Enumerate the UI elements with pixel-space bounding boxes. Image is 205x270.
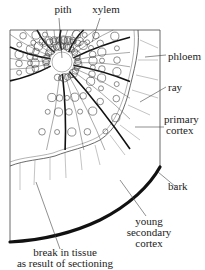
vessel	[89, 57, 97, 65]
leader-phloem	[145, 55, 166, 57]
vessel	[55, 130, 60, 135]
vessel	[42, 32, 47, 37]
ray-line	[47, 74, 60, 150]
vessel	[48, 93, 56, 101]
vessel	[68, 128, 76, 136]
vessel	[31, 40, 36, 45]
cortex-fibre	[34, 160, 35, 185]
leader-young-secondary-cortex	[120, 180, 146, 216]
vessel	[86, 87, 91, 92]
cortex-fibre	[95, 145, 100, 165]
cortex-fibre	[128, 105, 150, 115]
label-primary-cortex-2: cortex	[166, 125, 193, 136]
vessel	[16, 60, 23, 67]
vessel	[66, 109, 73, 116]
vessel	[97, 98, 104, 105]
vessel	[103, 129, 108, 134]
vessel	[113, 68, 121, 76]
vessel	[111, 32, 119, 40]
xylem-rays	[10, 30, 130, 150]
vessel	[78, 109, 83, 114]
vessel	[17, 70, 22, 75]
vessel	[112, 114, 120, 122]
label-pith: pith	[48, 4, 78, 15]
vessel	[45, 109, 50, 114]
cortex-fibre	[65, 153, 66, 178]
label-break-2: as result of sectioning	[6, 258, 124, 269]
vessel	[100, 58, 105, 63]
leader-ray	[140, 87, 166, 102]
vessel	[26, 66, 34, 74]
ray-line	[72, 30, 113, 56]
vessel	[80, 93, 87, 100]
cortex-fibre	[140, 40, 158, 48]
ray-line	[10, 66, 51, 81]
vessel	[99, 86, 104, 91]
vessel	[114, 57, 121, 64]
ray-line	[74, 65, 131, 81]
cortex-fibre	[136, 75, 158, 80]
phloem-boundary	[10, 30, 138, 166]
cortex-fibre	[80, 150, 82, 170]
vessel	[113, 95, 120, 102]
vessel	[54, 108, 62, 116]
vessel	[20, 33, 27, 40]
label-phloem: phloem	[168, 51, 201, 62]
label-ray: ray	[168, 82, 182, 93]
label-xylem: xylem	[88, 4, 124, 15]
vessel	[84, 129, 91, 136]
vessel	[39, 129, 46, 136]
label-bark: bark	[168, 181, 188, 192]
vessel	[82, 32, 87, 37]
vessel	[114, 82, 119, 87]
vessel	[17, 42, 22, 47]
label-young-secondary-cortex-3: cortex	[128, 238, 170, 249]
vessel	[89, 107, 97, 115]
vessel	[98, 74, 106, 82]
vessel	[114, 46, 119, 51]
ray-line	[67, 73, 105, 150]
